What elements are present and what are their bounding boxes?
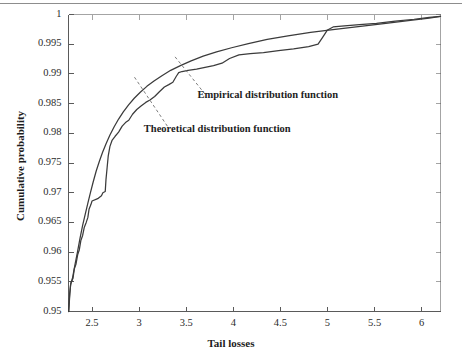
empirical-label: Empirical distribution function <box>198 89 339 100</box>
leader-lines-group <box>133 57 205 126</box>
x-tick-label-5: 5 <box>307 317 347 328</box>
x-tick-label-7: 6 <box>402 317 442 328</box>
x-axis-title: Tail losses <box>0 337 462 349</box>
x-tick-label-3: 4 <box>213 317 253 328</box>
x-tick-label-6: 5.5 <box>355 317 395 328</box>
axes-group <box>69 15 441 312</box>
ticks-group <box>69 15 441 312</box>
y-tick-label-7: 0.985 <box>8 97 62 108</box>
y-tick-label-10: 1 <box>8 8 62 19</box>
x-tick-label-1: 3 <box>119 317 159 328</box>
plot-canvas <box>0 0 462 356</box>
y-tick-label-8: 0.99 <box>8 67 62 78</box>
y-axis-title: Cumulative probability <box>14 111 26 221</box>
y-tick-label-2: 0.96 <box>8 245 62 256</box>
empirical-leader <box>175 57 205 94</box>
x-tick-label-4: 4.5 <box>260 317 300 328</box>
theoretical-label: Theoretical distribution function <box>144 123 291 134</box>
y-tick-label-1: 0.955 <box>8 275 62 286</box>
axis-frame-top-right <box>69 15 441 312</box>
axis-spines <box>69 15 441 312</box>
chart-figure: 0.950.9550.960.9650.970.9750.980.9850.99… <box>0 0 462 356</box>
x-tick-label-0: 2.5 <box>72 317 112 328</box>
y-tick-label-9: 0.995 <box>8 37 62 48</box>
series-curve-0 <box>69 16 441 311</box>
y-tick-label-0: 0.95 <box>8 305 62 316</box>
x-tick-label-2: 3.5 <box>166 317 206 328</box>
series-curve-1 <box>69 16 441 311</box>
series-group <box>69 16 441 311</box>
